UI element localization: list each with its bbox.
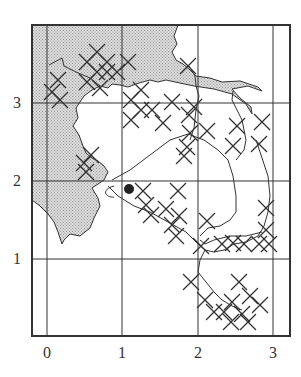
cross-marker-icon <box>170 183 186 199</box>
x-tick-label: 0 <box>43 345 51 361</box>
location-dot <box>124 184 134 194</box>
cross-marker-icon <box>183 274 199 290</box>
cross-marker-icon <box>224 294 240 310</box>
cross-marker-icon <box>133 82 149 98</box>
cross-marker-icon <box>164 94 180 110</box>
cross-marker-icon <box>242 288 258 304</box>
x-tick-label: 3 <box>269 345 277 361</box>
cross-marker-icon <box>251 236 267 252</box>
cross-marker-icon <box>164 217 180 233</box>
cross-marker-icon <box>223 314 239 330</box>
cross-marker-icon <box>258 200 274 216</box>
cross-marker-icon <box>206 304 222 320</box>
contour-line <box>106 186 114 197</box>
cross-marker-icon <box>123 112 139 128</box>
cross-marker-icon <box>216 304 232 320</box>
cross-marker-icon <box>199 213 215 229</box>
cross-marker-icon <box>258 222 274 238</box>
cross-marker-icon <box>231 274 247 290</box>
contour-line <box>108 186 242 310</box>
cross-marker-icon <box>197 292 213 308</box>
cross-marker-icon <box>199 123 215 139</box>
cross-marker-icon <box>225 138 241 154</box>
cross-marker-icon <box>240 314 256 330</box>
cross-marker-icon <box>252 297 268 313</box>
cross-marker-icon <box>261 236 277 252</box>
cross-marker-icon <box>168 228 184 244</box>
cross-marker-icon <box>234 306 250 322</box>
cross-marker-icon <box>135 183 151 199</box>
filled-circle-icon <box>124 184 134 194</box>
cross-marker-icon <box>155 115 171 131</box>
cross-marker-icon <box>254 114 270 130</box>
y-tick-label: 3 <box>13 95 21 111</box>
y-tick-label: 1 <box>13 251 21 267</box>
cross-marker-icon <box>144 102 160 118</box>
map-figure <box>0 0 301 377</box>
cross-marker-icon <box>181 107 197 123</box>
cross-marker-icon <box>186 99 202 115</box>
x-tick-label: 1 <box>118 345 126 361</box>
x-tick-label: 2 <box>194 345 202 361</box>
y-tick-label: 2 <box>13 173 21 189</box>
cross-marker-icon <box>229 118 245 134</box>
